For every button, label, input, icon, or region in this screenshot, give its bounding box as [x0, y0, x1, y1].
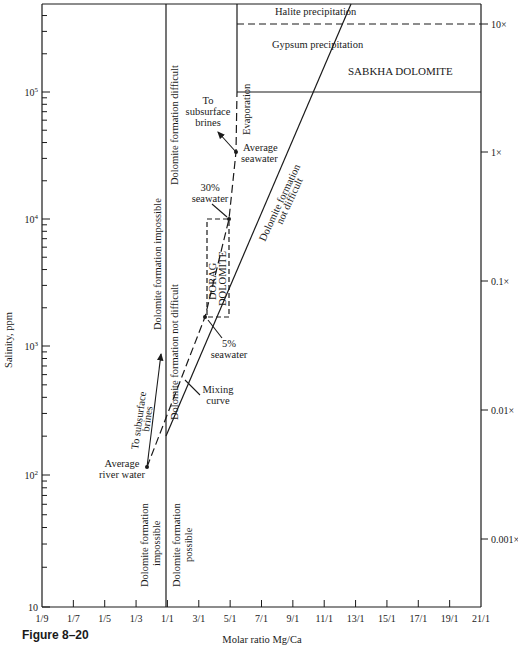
- right-tick-label: 0.1×: [491, 276, 509, 287]
- arrow-to-brines-upper: [218, 132, 236, 152]
- x-tick-label: 13/1: [347, 613, 365, 624]
- point-avg-seawater: [234, 150, 238, 154]
- sabkha-label: SABKHA DOLOMITE: [348, 65, 453, 77]
- plot-frame: [42, 4, 481, 607]
- boundary-lines: [147, 4, 481, 607]
- x-tick-label: 17/1: [409, 613, 427, 624]
- x-tick-label: 21/1: [472, 613, 490, 624]
- mixing-curve-1: Mixing: [203, 384, 235, 395]
- point-5pct-seawater: [203, 315, 207, 319]
- dolomite-diagram: Halite precipitation Gypsum precipitatio…: [0, 0, 518, 646]
- mixing-curve-2: curve: [206, 395, 230, 406]
- evaporation-label: Evaporation: [241, 83, 252, 135]
- x-tick-label: 1/5: [98, 613, 111, 624]
- x-tick-label: 1/1: [161, 613, 174, 624]
- y-tick-label: 102: [25, 469, 39, 481]
- right-tick-label: 10×: [491, 19, 507, 30]
- to-brines-upper-2: subsurface: [186, 106, 231, 117]
- right-axis-ticks: [481, 24, 488, 539]
- possible-lower-label-1: Dolomite formation: [171, 503, 182, 587]
- x-tick-label: 9/1: [286, 613, 299, 624]
- seawater-30-1: 30%: [200, 182, 220, 193]
- seawater-5-2: seawater: [211, 349, 248, 360]
- y-axis-label: Salinity, ppm: [3, 312, 14, 368]
- to-brines-upper-3: brines: [195, 117, 221, 128]
- x-tick-label: 15/1: [378, 613, 396, 624]
- x-tick-label: 11/1: [316, 613, 333, 624]
- not-difficult-mid-label: Dolomite formation not difficult: [169, 284, 180, 420]
- y-tick-label: 10: [28, 602, 38, 613]
- to-brines-upper-1: To: [203, 95, 214, 106]
- point-30pct-seawater: [227, 217, 231, 221]
- impossible-lower-label-2: impossible: [151, 520, 162, 566]
- point-river-water: [145, 465, 149, 469]
- avg-seawater-1: Average: [243, 142, 278, 153]
- impossible-upper-label: Dolomite formation impossible: [152, 198, 163, 330]
- y-tick-label: 105: [25, 86, 39, 98]
- right-tick-label: 0.001×: [491, 534, 518, 545]
- avg-river-2: river water: [99, 469, 145, 480]
- x-tick-label: 1/9: [36, 613, 49, 624]
- not-difficult-right-label-1: Dolomite formation: [257, 162, 303, 243]
- seawater-5-1: 5%: [222, 338, 236, 349]
- dorag-label-2: DOLOMITE: [217, 251, 228, 306]
- y-tick-labels: 10102103104105: [25, 86, 39, 613]
- x-tick-label: 7/1: [255, 613, 268, 624]
- x-tick-label: 3/1: [192, 613, 205, 624]
- gypsum-label: Gypsum precipitation: [272, 39, 364, 50]
- x-tick-labels: 1/91/71/51/31/13/15/17/19/111/113/115/11…: [36, 613, 490, 624]
- x-tick-label: 1/7: [67, 613, 80, 624]
- x-tick-label: 19/1: [441, 613, 459, 624]
- right-tick-label: 1×: [491, 147, 502, 158]
- figure-caption: Figure 8–20: [22, 628, 89, 642]
- x-tick-label: 5/1: [224, 613, 237, 624]
- possible-lower-label-2: possible: [183, 527, 194, 562]
- x-tick-label: 1/3: [130, 613, 143, 624]
- labels: Halite precipitation Gypsum precipitatio…: [3, 6, 453, 645]
- pointer-30pct: [212, 204, 227, 217]
- y-axis-ticks: [42, 16, 50, 607]
- right-tick-labels: 10×1×0.1×0.01×0.001×: [491, 19, 518, 545]
- halite-label: Halite precipitation: [275, 6, 357, 17]
- avg-river-1: Average: [105, 458, 140, 469]
- right-tick-label: 0.01×: [491, 405, 514, 416]
- x-axis-ticks: [73, 600, 449, 607]
- seawater-30-2: seawater: [192, 193, 229, 204]
- impossible-lower-label-1: Dolomite formation: [139, 503, 150, 587]
- difficult-label: Dolomite formation difficult: [169, 65, 180, 185]
- y-tick-label: 103: [25, 340, 39, 352]
- avg-seawater-2: seawater: [241, 153, 278, 164]
- to-brines-lower-2: brines: [140, 405, 154, 432]
- mixing-boundary-line: [166, 4, 351, 436]
- y-tick-label: 104: [25, 213, 39, 225]
- x-axis-label: Molar ratio Mg/Ca: [222, 634, 302, 645]
